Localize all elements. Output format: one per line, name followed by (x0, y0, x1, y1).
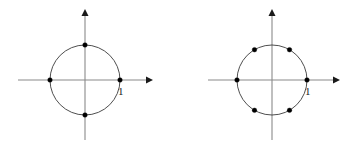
root-dot (287, 47, 292, 52)
unit-label-right: 1 (305, 85, 311, 97)
panel-sixth-roots-of-unity: 1 (176, 0, 352, 149)
panel-fourth-roots-of-unity: 1 (0, 0, 176, 149)
roots-of-unity-figure: 1 1 (0, 0, 352, 149)
root-dot (252, 47, 257, 52)
axes-right (208, 9, 340, 140)
root-dot (305, 78, 310, 83)
axes-left (18, 9, 153, 140)
x-axis-arrowhead-right (333, 77, 340, 84)
y-axis-arrowhead-right (269, 9, 276, 16)
root-dot (48, 78, 53, 83)
root-dot (118, 78, 123, 83)
x-axis-arrowhead-left (146, 77, 153, 84)
root-dot (252, 108, 257, 113)
root-dot (235, 78, 240, 83)
root-dot (287, 108, 292, 113)
unit-label-left: 1 (118, 85, 124, 97)
root-dot (83, 43, 88, 48)
y-axis-arrowhead-left (82, 9, 89, 16)
root-dot (83, 113, 88, 118)
